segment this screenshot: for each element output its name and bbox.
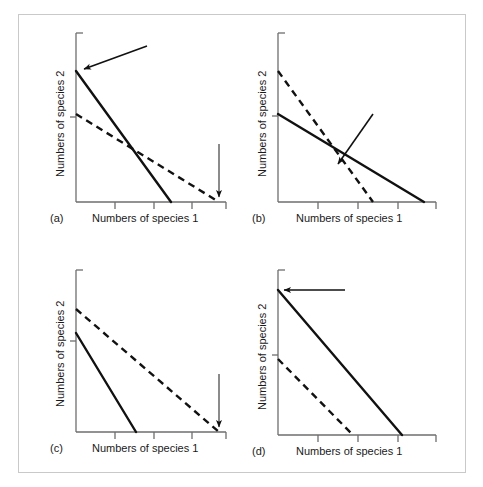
- panel-d-x-axis-label: Numbers of species 1: [296, 445, 402, 457]
- panel-b-y-axis-label: Numbers of species 2: [256, 71, 268, 177]
- panel-a-y-axis-label: Numbers of species 2: [54, 71, 66, 177]
- figure-root: Numbers of species 2 Numbers of species …: [0, 0, 483, 487]
- annotation-arrow-to-solid-intercept: [84, 46, 147, 69]
- panel-a-x-axis-label: Numbers of species 1: [92, 212, 198, 224]
- panel-a: Numbers of species 2 Numbers of species …: [30, 22, 245, 252]
- isocline-species2-dashed: [76, 114, 219, 202]
- isocline-species2-dashed: [278, 71, 373, 202]
- panel-c: Numbers of species 2 Numbers of species …: [30, 252, 245, 482]
- annotation-arrow-to-crossing-point: [338, 114, 373, 164]
- panel-b-tag: (b): [252, 212, 265, 224]
- panel-b: Numbers of species 2 Numbers of species …: [240, 22, 455, 252]
- panel-c-tag: (c): [50, 442, 63, 454]
- panel-d-tag: (d): [252, 445, 265, 457]
- panel-c-x-axis-label: Numbers of species 1: [92, 442, 198, 454]
- isocline-species1-solid: [278, 114, 424, 202]
- panel-a-tag: (a): [50, 212, 63, 224]
- isocline-species1-solid: [76, 71, 171, 202]
- panel-d: Numbers of species 2 Numbers of species …: [240, 252, 455, 482]
- isocline-species1-solid: [278, 290, 402, 435]
- panel-d-y-axis-label: Numbers of species 2: [256, 304, 268, 410]
- panel-c-y-axis-label: Numbers of species 2: [54, 301, 66, 407]
- isocline-species1-solid: [76, 333, 136, 432]
- isocline-species2-dashed: [278, 359, 353, 435]
- panel-b-x-axis-label: Numbers of species 1: [296, 212, 402, 224]
